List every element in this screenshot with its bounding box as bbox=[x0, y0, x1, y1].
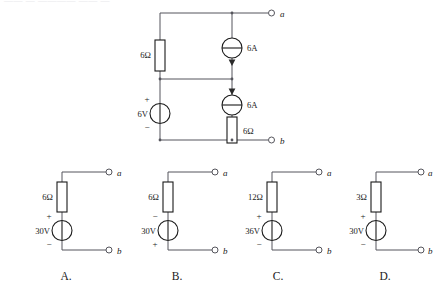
choice-b-resistor bbox=[163, 182, 173, 212]
choice-b-terminal-b-label: b bbox=[223, 246, 228, 256]
choice-d-terminal-b-node bbox=[418, 247, 424, 253]
choice-c-circuit[interactable]: 12Ω 36V + − a b C. bbox=[245, 168, 332, 283]
figure-root: —— — ———— —— — bbox=[0, 0, 433, 292]
choice-a-terminal-b-label: b bbox=[117, 246, 122, 256]
choice-c-caption: C. bbox=[273, 270, 284, 282]
current-source-bottom-arrow-icon bbox=[229, 89, 236, 96]
voltage-source-6v-label: 6V bbox=[137, 109, 148, 119]
current-source-bottom-label: 6A bbox=[247, 100, 258, 110]
terminal-a-label: a bbox=[280, 9, 285, 19]
choice-b-terminal-a-node bbox=[212, 169, 218, 175]
choice-c-resistor bbox=[267, 182, 277, 212]
junction-dot-mid-left bbox=[159, 78, 162, 81]
choice-d-bottom-sign: − bbox=[360, 239, 365, 249]
choice-a-terminal-a-node bbox=[106, 169, 112, 175]
resistor-bottom-label: 6Ω bbox=[243, 126, 254, 136]
choice-c-source-label: 36V bbox=[245, 226, 261, 236]
current-source-top-label: 6A bbox=[247, 43, 258, 53]
resistor-left-6ohm bbox=[155, 40, 165, 71]
choice-a-circuit[interactable]: 6Ω 30V + − a b A. bbox=[35, 168, 122, 283]
choice-a-top-sign: + bbox=[46, 211, 51, 221]
choice-a-resistor-label: 6Ω bbox=[42, 192, 53, 202]
choice-b-terminal-b-node bbox=[212, 247, 218, 253]
terminal-a-node bbox=[269, 10, 275, 16]
choice-b-source-label: 30V bbox=[141, 226, 157, 236]
junction-dot-mid-center bbox=[231, 78, 234, 81]
choice-d-circuit[interactable]: 3Ω 30V + − a b D. bbox=[349, 168, 433, 283]
choice-a-resistor bbox=[57, 182, 67, 212]
terminal-b-label: b bbox=[280, 136, 285, 146]
choice-c-top-sign: + bbox=[256, 211, 261, 221]
choice-b-circuit[interactable]: 6Ω 30V − + a b B. bbox=[141, 168, 228, 283]
choice-d-top-sign: + bbox=[360, 211, 365, 221]
choice-a-source-label: 30V bbox=[35, 226, 51, 236]
voltage-source-6v-plus-sign: + bbox=[144, 94, 149, 104]
choice-d-resistor-label: 3Ω bbox=[356, 192, 367, 202]
choice-d-source-label: 30V bbox=[349, 226, 365, 236]
circuit-figure: 6Ω 6A 6A 6Ω 6V + − a b bbox=[0, 0, 433, 292]
choice-c-terminal-b-label: b bbox=[327, 246, 332, 256]
choice-a-terminal-b-node bbox=[106, 247, 112, 253]
resistor-left-label: 6Ω bbox=[140, 50, 151, 60]
choice-a-caption: A. bbox=[60, 270, 71, 282]
junction-dot-bottom-center bbox=[231, 139, 234, 142]
choice-b-bottom-sign: + bbox=[152, 239, 157, 249]
choice-c-terminal-a-label: a bbox=[327, 168, 332, 178]
choice-c-terminal-b-node bbox=[316, 247, 322, 253]
current-source-top-arrow-icon bbox=[229, 60, 236, 67]
choice-b-top-sign: − bbox=[152, 211, 157, 221]
choice-b-terminal-a-label: a bbox=[223, 168, 228, 178]
choice-a-bottom-sign: − bbox=[46, 239, 51, 249]
choice-d-terminal-a-node bbox=[418, 169, 424, 175]
choice-c-terminal-a-node bbox=[316, 169, 322, 175]
voltage-source-6v-minus-sign: − bbox=[144, 122, 149, 132]
choice-d-resistor bbox=[371, 182, 381, 212]
choice-a-terminal-a-label: a bbox=[117, 168, 122, 178]
choice-c-resistor-label: 12Ω bbox=[248, 192, 263, 202]
choice-d-terminal-b-label: b bbox=[428, 246, 433, 256]
choice-b-resistor-label: 6Ω bbox=[148, 192, 159, 202]
choice-b-caption: B. bbox=[172, 270, 183, 282]
choice-c-bottom-sign: − bbox=[256, 239, 261, 249]
choice-d-caption: D. bbox=[379, 270, 390, 282]
junction-dot-bottom-left bbox=[159, 139, 162, 142]
main-circuit: 6Ω 6A 6A 6Ω 6V + − a b bbox=[137, 9, 285, 146]
junction-dot-top bbox=[231, 12, 234, 15]
terminal-b-node bbox=[269, 137, 275, 143]
choice-d-terminal-a-label: a bbox=[428, 168, 433, 178]
